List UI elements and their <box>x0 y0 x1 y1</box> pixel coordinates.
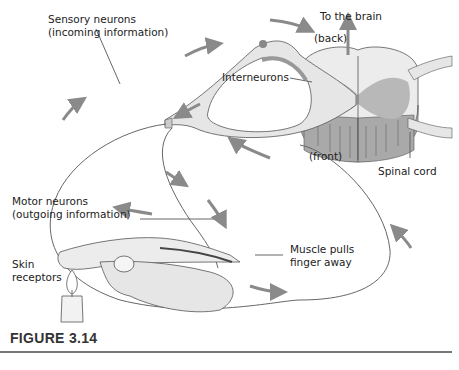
label-sensory-neurons: Sensory neurons <box>48 13 136 26</box>
label-motor-sub: (outgoing information) <box>12 208 131 221</box>
label-skin: Skin <box>12 258 34 271</box>
figure-caption: FIGURE 3.14 <box>10 330 97 346</box>
hand <box>58 238 240 312</box>
label-muscle: Muscle pulls <box>290 243 354 256</box>
label-sensory-sub: (incoming information) <box>48 26 168 39</box>
label-to-brain: To the brain <box>320 10 382 23</box>
label-motor-neurons: Motor neurons <box>12 195 88 208</box>
label-spinal-cord: Spinal cord <box>378 165 437 178</box>
label-skin-sub: receptors <box>12 271 62 284</box>
reflex-arc-diagram <box>0 0 459 370</box>
label-muscle-sub: finger away <box>290 256 352 269</box>
label-interneurons: Interneurons <box>222 71 289 84</box>
label-back: (back) <box>314 32 347 45</box>
candle <box>61 270 83 322</box>
label-front: (front) <box>309 150 342 163</box>
caption-rule <box>0 351 452 353</box>
